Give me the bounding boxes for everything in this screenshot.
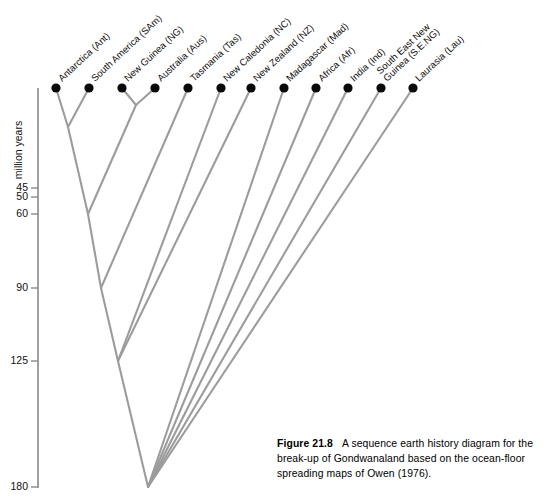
branch-60-to-90 (88, 214, 101, 288)
branch-antarctica (56, 88, 68, 127)
branch-ng-aus-to-60 (88, 105, 136, 214)
tick-label-180: 180 (10, 480, 28, 492)
tree-branches (56, 88, 413, 487)
branch-tasmania (101, 88, 188, 288)
axis-tick-labels: 45 50 60 90 125 180 (10, 181, 28, 492)
figure-page: 45 50 60 90 125 180 million years (0, 0, 547, 496)
node-new-zealand[interactable] (246, 83, 255, 92)
node-new-guinea[interactable] (117, 83, 126, 92)
node-antarctica[interactable] (51, 83, 60, 92)
branch-ant-sam-to-60 (68, 127, 88, 214)
axis-ticks (31, 188, 38, 487)
branch-125-to-180 (118, 361, 148, 487)
node-madagascar[interactable] (279, 83, 288, 92)
node-india[interactable] (343, 83, 352, 92)
node-south-america[interactable] (84, 83, 93, 92)
tick-label-50: 50 (16, 190, 28, 202)
branch-south-america (68, 88, 89, 127)
branch-africa (148, 88, 316, 487)
node-new-caledonia[interactable] (216, 83, 225, 92)
caption-gap (333, 438, 342, 449)
earth-history-tree-diagram: 45 50 60 90 125 180 million years (0, 0, 547, 496)
branch-90-to-125 (101, 288, 118, 361)
branch-india (148, 88, 348, 487)
node-south-east-new-guinea[interactable] (376, 83, 385, 92)
tick-label-90: 90 (16, 281, 28, 293)
node-tasmania[interactable] (183, 83, 192, 92)
taxon-label-new-guinea: New Guinea (NG) (122, 23, 185, 83)
time-axis: 45 50 60 90 125 180 million years (10, 88, 38, 492)
figure-caption: Figure 21.8 A sequence earth history dia… (277, 437, 535, 481)
node-australia[interactable] (150, 83, 159, 92)
axis-title-million-years: million years (12, 121, 24, 179)
node-africa[interactable] (311, 83, 320, 92)
figure-number: Figure 21.8 (277, 438, 333, 449)
node-laurasia[interactable] (408, 83, 417, 92)
branch-laurasia (148, 88, 413, 487)
tick-label-60: 60 (16, 207, 28, 219)
taxon-labels: Antarctica (Ant) South America (SAm) New… (56, 13, 466, 84)
terminal-nodes (51, 83, 417, 92)
tick-label-125: 125 (10, 354, 28, 366)
